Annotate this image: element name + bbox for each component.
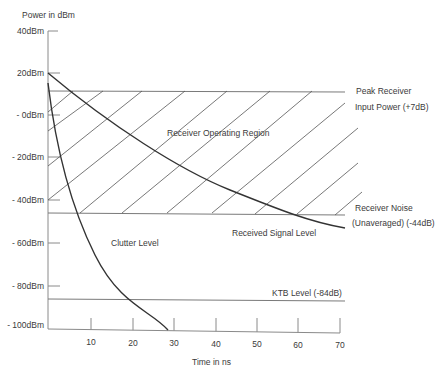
y-tick-label: - 80dBm xyxy=(0,282,44,291)
receiver-noise-line xyxy=(48,213,345,215)
operating-region-label: Receiver Operating Region xyxy=(167,129,270,138)
x-tick-label: 60 xyxy=(288,341,308,350)
y-tick-label: 40dBm xyxy=(0,27,44,36)
receiver-noise-label: Receiver Noise xyxy=(355,204,413,213)
y-axis-title: Power in dBm xyxy=(22,11,75,20)
y-tick-label: - 40dBm xyxy=(0,196,44,205)
x-tick-label: 20 xyxy=(123,339,143,348)
ktb-level-label: KTB Level (-84dB) xyxy=(272,289,342,298)
x-axis xyxy=(48,329,340,333)
ktb-level-line xyxy=(48,299,345,301)
x-tick-label: 70 xyxy=(330,341,350,350)
y-tick-label: 20dBm xyxy=(0,69,44,78)
peak-receiver-line xyxy=(48,91,345,92)
y-tick-label: - 0dBm xyxy=(0,111,44,120)
peak-receiver-label: Peak Receiver xyxy=(356,87,411,96)
x-axis-title: Time in ns xyxy=(192,358,231,367)
x-tick-label: 10 xyxy=(81,338,101,347)
x-tick-label: 40 xyxy=(206,340,226,349)
received-signal-label: Received Signal Level xyxy=(232,229,316,238)
clutter-level-label: Clutter Level xyxy=(111,239,159,248)
y-tick-label: - 20dBm xyxy=(0,153,44,162)
y-tick-label: - 60dBm xyxy=(0,239,44,248)
receiver-noise-unaveraged-label: (Unaveraged) (-44dB) xyxy=(352,219,435,228)
peak-input-power-label: Input Power (+7dB) xyxy=(355,103,428,112)
x-tick-label: 50 xyxy=(247,340,267,349)
x-tick-label: 30 xyxy=(164,339,184,348)
y-tick-label: - 100dBm xyxy=(0,321,44,330)
diagram-canvas xyxy=(0,0,442,374)
received-signal-curve xyxy=(48,73,345,228)
